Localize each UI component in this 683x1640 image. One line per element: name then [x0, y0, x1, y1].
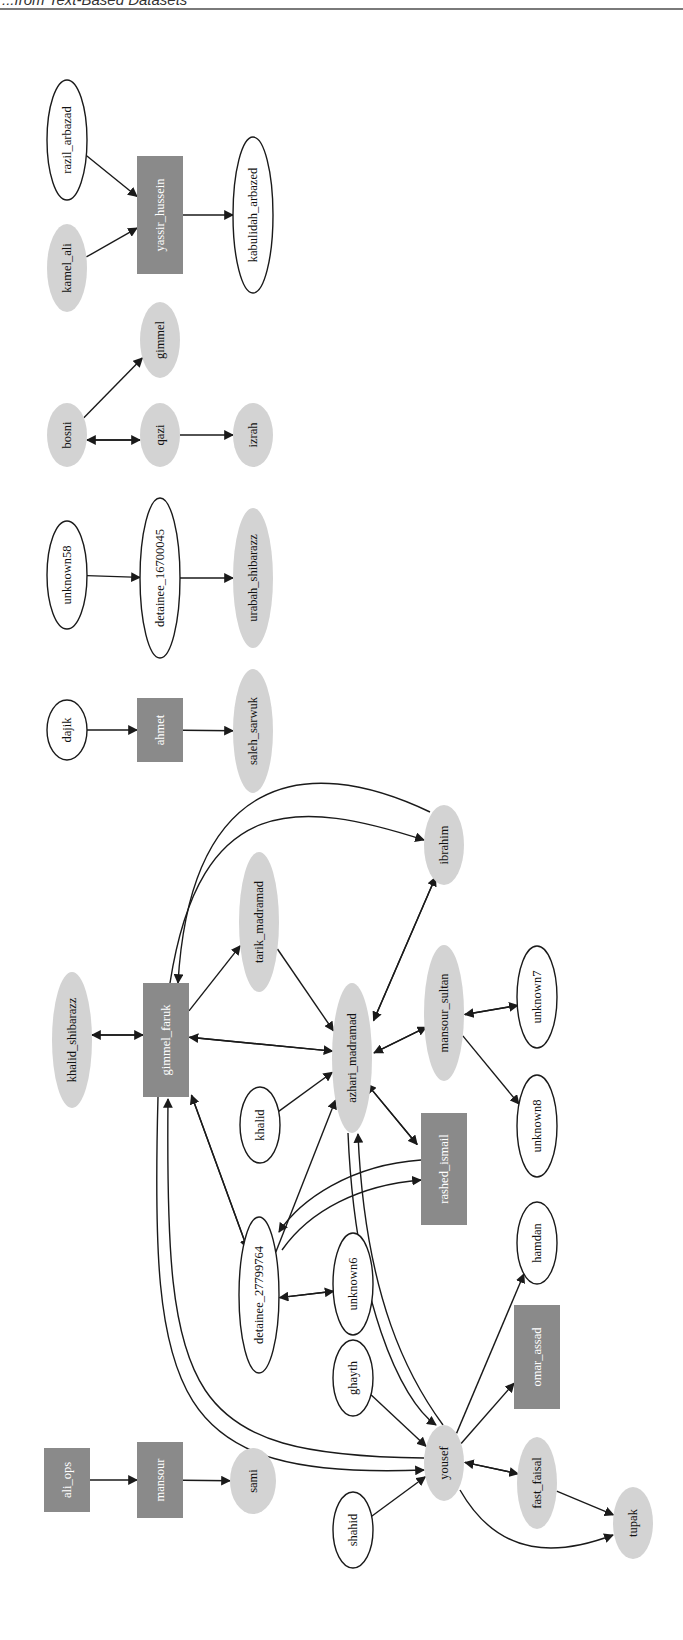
node-kabulidah_arbazed[interactable]: kabulidah_arbazed	[233, 137, 273, 293]
node-label: fast_faisal	[530, 1457, 544, 1509]
node-izrah[interactable]: izrah	[233, 403, 273, 467]
edge-unknown7-mansour_sultan	[465, 1005, 518, 1014]
edge-gimmel_faruk-ibrahim	[170, 816, 424, 983]
node-label: ali_ops	[60, 1462, 74, 1498]
node-label: unknown6	[346, 1258, 360, 1311]
node-rashed_ismail[interactable]: rashed_ismail	[421, 1113, 467, 1225]
edge-unknown58-detainee_16700045	[87, 576, 140, 578]
node-ghayth[interactable]: ghayth	[333, 1340, 373, 1416]
node-label: unknown58	[60, 545, 74, 604]
edge-bosni-gimmel	[84, 358, 143, 418]
node-razil_arbazad[interactable]: razil_arbazad	[47, 80, 87, 200]
node-gimmel[interactable]: gimmel	[140, 302, 180, 378]
edge-kamel_ali-yassir_hussein	[86, 228, 137, 257]
edge-ahmet-saleh_sarwuk	[183, 730, 233, 731]
edge-gimmel_faruk-yousef	[157, 1097, 424, 1471]
edge-tarik_madramad-azhari_madramad	[277, 949, 333, 1031]
node-yassir_hussein[interactable]: yassir_hussein	[137, 156, 183, 274]
node-fast_faisal[interactable]: fast_faisal	[517, 1437, 557, 1529]
node-label: saleh_sarwuk	[246, 696, 260, 765]
node-label: sami	[246, 1469, 260, 1493]
node-label: kabulidah_arbazed	[246, 167, 260, 262]
node-sami[interactable]: sami	[230, 1448, 276, 1514]
node-yousef[interactable]: yousef	[424, 1425, 464, 1501]
node-label: dajik	[60, 717, 74, 743]
node-label: khalid	[253, 1109, 267, 1141]
node-label: tupak	[626, 1508, 640, 1537]
node-unknown7[interactable]: unknown7	[517, 946, 557, 1048]
node-label: mansour_sultan	[437, 973, 451, 1053]
node-shahid[interactable]: shahid	[333, 1492, 373, 1568]
node-label: razil_arbazad	[60, 106, 74, 174]
node-label: tarik_madramad	[252, 880, 266, 963]
node-mansour[interactable]: mansour	[137, 1442, 183, 1518]
edge-unknown6-detainee_27799764	[280, 1291, 334, 1297]
node-label: unknown7	[530, 971, 544, 1024]
node-label: ghayth	[346, 1360, 360, 1395]
node-label: rashed_ismail	[437, 1134, 451, 1204]
edge-yousef-omar_assad	[461, 1383, 514, 1443]
node-label: kamel_ali	[60, 243, 74, 293]
edge-shahid-yousef	[372, 1477, 426, 1517]
node-urabah_shibarazz[interactable]: urabah_shibarazz	[233, 508, 273, 648]
edge-mansour-sami	[183, 1480, 230, 1481]
edge-ibrahim-gimmel_faruk	[178, 783, 430, 983]
node-detainee_16700045[interactable]: detainee_16700045	[140, 498, 180, 658]
node-label: ahmet	[153, 714, 167, 745]
edge-fast_faisal-yousef	[465, 1462, 518, 1473]
node-ibrahim[interactable]: ibrahim	[424, 805, 464, 885]
node-label: detainee_27799764	[252, 1245, 266, 1344]
node-label: ibrahim	[437, 825, 451, 864]
edge-detainee_27799764-gimmel_faruk	[191, 1095, 247, 1248]
node-omar_assad[interactable]: omar_assad	[514, 1305, 560, 1409]
node-label: azhari_madramad	[345, 1012, 359, 1102]
node-unknown8[interactable]: unknown8	[517, 1075, 557, 1177]
node-label: urabah_shibarazz	[246, 534, 260, 622]
edge-detainee_27799764-azhari_madramad	[276, 1100, 336, 1252]
node-khalid_shibarazz[interactable]: khalid_shibarazz	[52, 972, 92, 1108]
node-label: unknown8	[530, 1100, 544, 1153]
node-gimmel_faruk[interactable]: gimmel_faruk	[143, 983, 189, 1097]
edge-fast_faisal-tupak	[557, 1491, 614, 1515]
node-dajik[interactable]: dajik	[47, 700, 87, 760]
node-bosni[interactable]: bosni	[47, 403, 87, 467]
node-label: bosni	[60, 421, 74, 449]
node-saleh_sarwuk[interactable]: saleh_sarwuk	[233, 669, 273, 793]
edge-yousef-gimmel_faruk	[168, 1099, 424, 1458]
edge-ghayth-yousef	[371, 1395, 426, 1446]
node-unknown6[interactable]: unknown6	[333, 1233, 373, 1335]
edge-rashed_ismail-azhari_madramad	[367, 1084, 417, 1144]
node-qazi[interactable]: qazi	[140, 403, 180, 467]
node-label: mansour	[153, 1458, 167, 1502]
node-label: gimmel_faruk	[159, 1004, 173, 1076]
node-label: izrah	[246, 422, 260, 448]
node-khalid[interactable]: khalid	[240, 1087, 280, 1163]
edge-khalid-azhari_madramad	[279, 1072, 333, 1111]
edge-gimmel_faruk-tarik_madramad	[189, 946, 240, 1011]
network-graph: ali_opsmansoursamishahidghaythyouseffast…	[0, 0, 683, 1640]
node-unknown58[interactable]: unknown58	[47, 521, 87, 629]
node-label: khalid_shibarazz	[65, 997, 79, 1082]
edge-mansour_sultan-azhari_madramad	[374, 1027, 426, 1053]
node-ali_ops[interactable]: ali_ops	[44, 1448, 90, 1512]
node-label: yousef	[437, 1446, 451, 1480]
node-detainee_27799764[interactable]: detainee_27799764	[239, 1217, 279, 1373]
edge-razil_arbazad-yassir_hussein	[86, 156, 137, 197]
node-ahmet[interactable]: ahmet	[137, 698, 183, 762]
nodes-layer: ali_opsmansoursamishahidghaythyouseffast…	[44, 80, 653, 1568]
node-label: omar_assad	[530, 1327, 544, 1387]
node-tupak[interactable]: tupak	[613, 1487, 653, 1559]
node-kamel_ali[interactable]: kamel_ali	[47, 224, 87, 312]
node-mansour_sultan[interactable]: mansour_sultan	[424, 945, 464, 1081]
node-label: shahid	[346, 1513, 360, 1546]
edge-azhari_madramad-gimmel_faruk	[189, 1037, 332, 1051]
node-azhari_madramad[interactable]: azhari_madramad	[332, 983, 372, 1133]
node-label: gimmel	[153, 320, 167, 359]
node-label: detainee_16700045	[153, 529, 167, 627]
edge-mansour_sultan-unknown8	[463, 1036, 519, 1104]
node-label: yassir_hussein	[153, 178, 167, 252]
node-hamdan[interactable]: hamdan	[517, 1202, 557, 1284]
node-tarik_madramad[interactable]: tarik_madramad	[239, 852, 279, 992]
node-label: hamdan	[530, 1222, 544, 1262]
node-label: qazi	[153, 424, 167, 445]
